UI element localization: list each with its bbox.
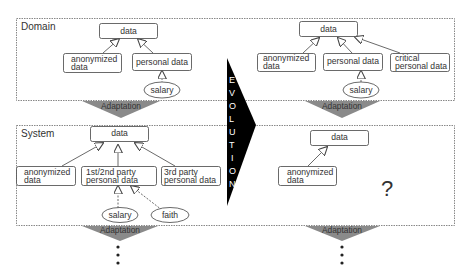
node-anonymized-2: data	[71, 62, 88, 72]
continuation-dots-left	[116, 245, 119, 264]
unknown-question-mark: ?	[381, 176, 393, 201]
svg-text:L: L	[229, 114, 234, 124]
svg-text:U: U	[229, 127, 236, 137]
svg-text:Adaptation: Adaptation	[100, 225, 140, 235]
node-data: data	[120, 26, 137, 36]
node-anonymized-2: data	[24, 175, 41, 185]
node-salary: salary	[350, 85, 374, 95]
node-personal: personal data	[327, 56, 379, 66]
adaptation-arrow-left: Adaptation	[82, 101, 160, 118]
svg-text:N: N	[229, 179, 236, 189]
domain-label: Domain	[21, 21, 55, 32]
svg-text:Adaptation: Adaptation	[322, 101, 362, 111]
svg-text:V: V	[229, 88, 235, 98]
system-label: System	[21, 128, 54, 139]
node-salary: salary	[151, 85, 175, 95]
svg-text:E: E	[229, 75, 235, 85]
node-anonymized-2: data	[287, 175, 304, 185]
node-data: data	[320, 24, 337, 34]
adaptation-arrow-left-bottom: Adaptation	[82, 225, 158, 241]
adaptation-arrow-right: Adaptation	[305, 101, 380, 118]
node-data: data	[111, 128, 128, 138]
node-salary: salary	[109, 210, 133, 220]
node-data: data	[331, 132, 348, 142]
node-faith: faith	[162, 210, 178, 220]
node-anonymized-2: data	[263, 61, 280, 71]
continuation-dots-right	[340, 245, 343, 264]
svg-text:O: O	[229, 166, 236, 176]
svg-text:Adaptation: Adaptation	[101, 101, 141, 111]
node-personal: personal data	[136, 57, 188, 67]
svg-text:Adaptation: Adaptation	[322, 225, 362, 235]
svg-text:O: O	[229, 101, 236, 111]
adaptation-arrow-right-bottom: Adaptation	[305, 225, 380, 241]
node-critical-2: personal data	[395, 61, 447, 71]
node-first-second-2: personal data	[86, 175, 138, 185]
node-third-2: personal data	[164, 175, 216, 185]
svg-text:I: I	[231, 153, 234, 163]
svg-text:T: T	[229, 140, 235, 150]
